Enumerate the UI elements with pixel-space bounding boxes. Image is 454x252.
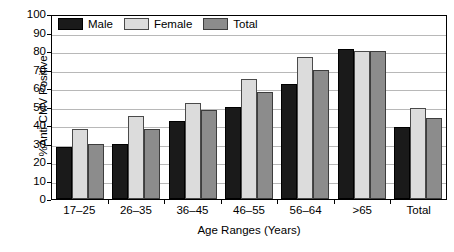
x-axis-tick-label: 36–45 bbox=[164, 204, 221, 216]
y-axis-tick-mark bbox=[47, 71, 51, 72]
x-axis-tick-labels: 17–2526–3536–4546–5556–64>65Total bbox=[51, 204, 447, 216]
y-axis-tick-mark bbox=[47, 200, 51, 201]
x-axis-tick-mark bbox=[277, 200, 278, 204]
legend-label: Female bbox=[154, 18, 192, 30]
bar-male bbox=[169, 121, 185, 199]
bar-female bbox=[72, 129, 88, 199]
bar-chart-figure: %Anti-CMV Positive 010203040506070809010… bbox=[0, 0, 454, 252]
bar-male bbox=[281, 84, 297, 199]
bar-group bbox=[277, 16, 333, 199]
bar-male bbox=[56, 147, 72, 199]
bar-female bbox=[185, 103, 201, 199]
chart-legend: MaleFemaleTotal bbox=[58, 18, 258, 30]
x-axis-tick-label: >65 bbox=[334, 204, 391, 216]
plot-area bbox=[51, 15, 447, 200]
bar-male bbox=[112, 144, 128, 200]
bar-female bbox=[354, 51, 370, 199]
y-axis-tick-label: 70 bbox=[18, 65, 46, 77]
x-axis-tick-label: 26–35 bbox=[108, 204, 165, 216]
bar-total bbox=[144, 129, 160, 199]
y-axis-tick-label: 100 bbox=[18, 9, 46, 21]
x-axis-tick-mark bbox=[221, 200, 222, 204]
legend-label: Total bbox=[233, 18, 257, 30]
bar-total bbox=[201, 110, 217, 199]
x-axis-tick-label: 17–25 bbox=[51, 204, 108, 216]
y-axis-tick-mark bbox=[47, 52, 51, 53]
legend-swatch-male bbox=[58, 18, 83, 30]
bar-female bbox=[410, 108, 426, 199]
y-axis-tick-label: 80 bbox=[18, 46, 46, 58]
x-axis-tick-label: 56–64 bbox=[277, 204, 334, 216]
y-axis-tick-mark bbox=[47, 163, 51, 164]
bar-total bbox=[370, 51, 386, 199]
bar-group bbox=[333, 16, 389, 199]
y-axis-tick-mark bbox=[47, 126, 51, 127]
bar-male bbox=[225, 107, 241, 200]
x-axis-tick-mark bbox=[390, 200, 391, 204]
bar-group bbox=[221, 16, 277, 199]
bar-female bbox=[128, 116, 144, 199]
bar-total bbox=[426, 118, 442, 199]
y-axis-tick-label: 90 bbox=[18, 28, 46, 40]
bar-total bbox=[257, 92, 273, 199]
y-axis-tick-label: 30 bbox=[18, 139, 46, 151]
y-axis-tick-label: 40 bbox=[18, 120, 46, 132]
x-axis-tick-label: 46–55 bbox=[221, 204, 278, 216]
x-axis-tick-mark bbox=[164, 200, 165, 204]
y-axis-tick-mark bbox=[47, 145, 51, 146]
y-axis-tick-mark bbox=[47, 34, 51, 35]
x-axis-tick-mark bbox=[108, 200, 109, 204]
y-axis-tick-mark bbox=[47, 108, 51, 109]
x-axis-tick-mark bbox=[334, 200, 335, 204]
bar-group bbox=[165, 16, 221, 199]
legend-label: Male bbox=[88, 18, 113, 30]
x-axis-tick-label: Total bbox=[390, 204, 447, 216]
y-axis-tick-label: 20 bbox=[18, 157, 46, 169]
y-axis-tick-label: 10 bbox=[18, 176, 46, 188]
bar-total bbox=[313, 70, 329, 200]
bar-group bbox=[108, 16, 164, 199]
bar-female bbox=[241, 79, 257, 199]
legend-entry: Total bbox=[203, 18, 257, 30]
y-axis-tick-label: 0 bbox=[18, 194, 46, 206]
bar-total bbox=[88, 144, 104, 200]
bar-male bbox=[338, 49, 354, 199]
y-axis-tick-labels: 0102030405060708090100 bbox=[18, 15, 46, 200]
y-axis-tick-label: 50 bbox=[18, 102, 46, 114]
y-axis-tick-mark bbox=[47, 182, 51, 183]
legend-swatch-total bbox=[203, 18, 228, 30]
y-axis-tick-label: 60 bbox=[18, 83, 46, 95]
legend-swatch-female bbox=[124, 18, 149, 30]
bar-female bbox=[297, 57, 313, 199]
legend-entry: Male bbox=[58, 18, 113, 30]
y-axis-tick-mark bbox=[47, 89, 51, 90]
bar-group bbox=[390, 16, 446, 199]
bar-group bbox=[52, 16, 108, 199]
bar-groups bbox=[52, 16, 446, 199]
y-axis-tick-mark bbox=[47, 15, 51, 16]
x-axis-title: Age Ranges (Years) bbox=[51, 224, 447, 236]
legend-entry: Female bbox=[124, 18, 192, 30]
bar-male bbox=[394, 127, 410, 199]
